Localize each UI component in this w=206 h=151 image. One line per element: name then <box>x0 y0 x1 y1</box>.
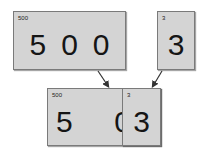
arrow-icon <box>153 71 162 86</box>
arrows <box>0 0 206 151</box>
arrow-icon <box>98 71 108 86</box>
